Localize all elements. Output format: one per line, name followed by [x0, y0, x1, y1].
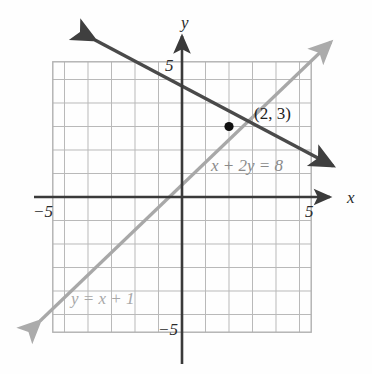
x-axis-tick-5: 5: [305, 203, 314, 220]
graph-canvas: [0, 0, 372, 374]
x-axis-label: x: [347, 189, 355, 206]
intersection-point-label: (2, 3): [254, 105, 291, 122]
intersection-point-marker: [224, 122, 233, 131]
coordinate-graph-figure: y x 5 −5 −5 5 (2, 3) x + 2y = 8 y = x + …: [0, 0, 372, 374]
y-axis-label: y: [181, 14, 189, 31]
y-axis-tick-minus-5: −5: [158, 321, 178, 338]
line-y-equals-x-plus-1: [40, 42, 331, 321]
x-axis-tick-minus-5: −5: [33, 203, 53, 220]
equation-label-y-equals-x-plus-1: y = x + 1: [71, 290, 135, 307]
y-axis-tick-5: 5: [165, 57, 174, 74]
equation-label-x-plus-2y-equals-8: x + 2y = 8: [211, 157, 283, 174]
